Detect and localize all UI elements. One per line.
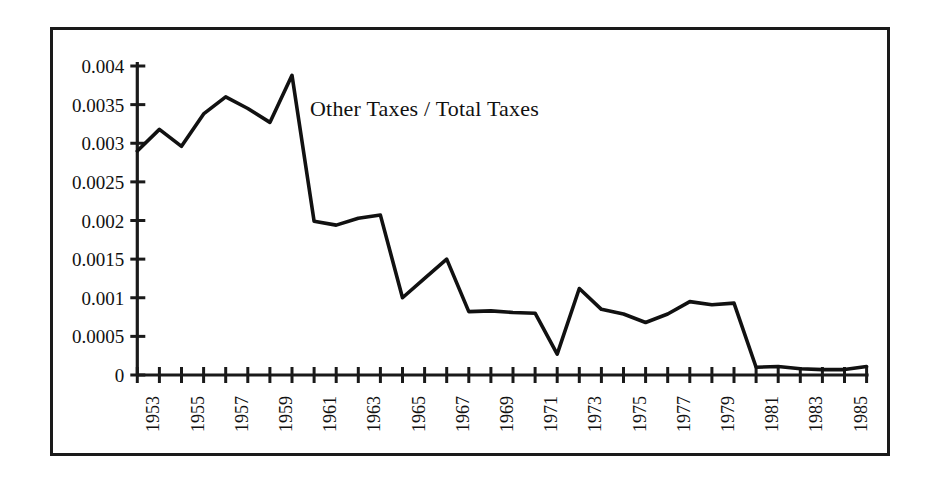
x-tick-label-1963: 1963 (365, 396, 383, 432)
x-tick-label-1979: 1979 (719, 396, 737, 432)
x-tick-label-1973: 1973 (586, 396, 604, 432)
x-tick-label-1975: 1975 (631, 396, 649, 432)
y-tick-label-2: 0.001 (82, 288, 125, 307)
x-tick-label-1981: 1981 (763, 396, 781, 432)
x-tick-label-1961: 1961 (321, 396, 339, 432)
x-tick-label-1971: 1971 (542, 396, 560, 432)
y-tick-label-1: 0.0005 (72, 327, 124, 346)
x-tick-label-1977: 1977 (675, 396, 693, 432)
figure-container: 00.00050.0010.00150.0020.00250.0030.0035… (0, 0, 934, 484)
y-tick-label-3: 0.0015 (72, 250, 124, 269)
y-tick-label-8: 0.004 (82, 57, 125, 76)
x-tick-label-1959: 1959 (277, 396, 295, 432)
x-tick-label-1985: 1985 (852, 396, 870, 432)
y-tick-label-5: 0.0025 (72, 172, 124, 191)
x-tick-label-1983: 1983 (807, 396, 825, 432)
x-tick-label-1969: 1969 (498, 396, 516, 432)
x-tick-label-1967: 1967 (454, 396, 472, 432)
chart-title: Other Taxes / Total Taxes (310, 96, 539, 122)
y-tick-label-4: 0.002 (82, 211, 125, 230)
x-tick-label-1965: 1965 (410, 396, 428, 432)
y-tick-label-6: 0.003 (82, 134, 125, 153)
x-tick-label-1953: 1953 (144, 396, 162, 432)
y-tick-label-7: 0.0035 (72, 95, 124, 114)
x-tick-label-1955: 1955 (189, 396, 207, 432)
y-tick-label-0: 0 (115, 366, 125, 385)
x-tick-label-1957: 1957 (233, 396, 251, 432)
